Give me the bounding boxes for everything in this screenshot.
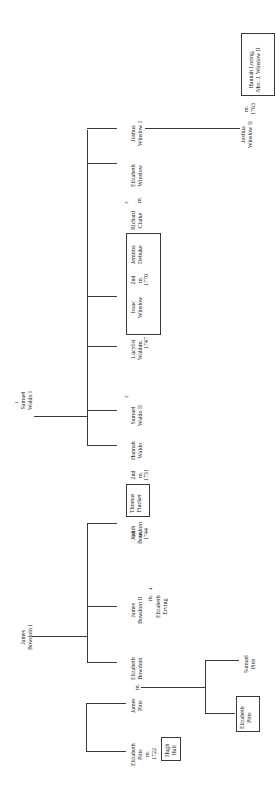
name-line: Elizabeth: [130, 743, 137, 766]
marriage-note: m. 1763: [243, 103, 256, 115]
name-line: Elizabeth: [130, 657, 137, 680]
person-elizabeth-pitts-sr: Elizabeth Pitts: [130, 743, 143, 766]
connector-line: [141, 687, 205, 688]
person-jemima-debuke: Jemima Debuke: [130, 245, 143, 264]
name-line: Hugh: [164, 744, 171, 757]
footnote-marker: 4: [148, 588, 153, 591]
name-line: Elizabeth: [130, 164, 137, 187]
connector-line: [86, 703, 87, 751]
marriage-note: 2nd m. 1770: [130, 274, 150, 286]
connector-line: [87, 410, 117, 411]
name-line: Winslow I: [137, 121, 144, 146]
person-samuel-waldo-i: Samuel Waldo I: [20, 391, 33, 410]
name-line: Bowdoin: [137, 657, 144, 680]
person-joshua-winslow-ii: Joshua Winslow II: [240, 121, 253, 148]
name-line: Hannah: [130, 441, 137, 460]
name-line: Bowdoin: [137, 522, 144, 544]
name-line: Winslow: [137, 164, 144, 187]
name-line: Pitts: [137, 698, 144, 713]
connector-line: [86, 751, 126, 752]
name-line: Clarke: [137, 211, 144, 230]
name-line: Joshua: [240, 121, 247, 148]
footnote-marker: 1: [14, 402, 19, 405]
name-line: Winslow: [137, 297, 144, 318]
person-elizabeth-erving: Elizabeth Erving: [155, 595, 168, 618]
marriage-year: 1744: [143, 528, 150, 540]
person-hugh-hall: Hugh Hall: [164, 744, 177, 757]
name-line: Waldo I: [27, 391, 34, 410]
name-line: Elizabeth: [239, 706, 246, 729]
marriage-year: 1751: [143, 469, 150, 481]
marriage-label: m.: [243, 103, 250, 115]
person-richard-clarke: Richard Clarke: [130, 211, 143, 230]
person-james-bowdoin-i: James Bowdoin I: [20, 625, 33, 651]
marriage-label: m.: [137, 274, 144, 286]
name-line: Jemima: [130, 245, 137, 264]
name-line: James: [130, 698, 137, 713]
person-samuel-pitts: Samuel Pitts: [243, 655, 256, 673]
connector-line: [87, 523, 88, 662]
connector-line: [87, 662, 117, 663]
person-elizabeth-bowdoin: Elizabeth Bowdoin: [130, 657, 143, 680]
connector-line: [34, 416, 87, 417]
person-james-pitts: James Pitts: [130, 698, 143, 713]
name-line: James: [130, 597, 137, 625]
name-line: Bowdoin II: [137, 597, 144, 625]
name-line: Samuel: [20, 391, 27, 410]
name-line: James: [20, 625, 27, 651]
person-samuel-waldo-ii: Samuel Waldo II: [130, 405, 143, 426]
name-line: Waldo: [137, 441, 144, 460]
connector-line: [205, 660, 239, 661]
name-line: Samuel: [243, 655, 250, 673]
marriage-label: m.: [144, 748, 151, 760]
person-james-bowdoin-ii: James Bowdoin II: [130, 597, 143, 625]
marriage-note: m. 1722: [144, 748, 157, 760]
marriage-order: 2nd: [130, 469, 137, 481]
name-line: Judith: [130, 522, 137, 544]
marriage-year: 1747: [143, 337, 150, 349]
name-line: Bowdoin I: [27, 625, 34, 651]
connector-line: [87, 296, 117, 297]
person-isaac-winslow: Isaac Winslow: [130, 297, 143, 318]
name-line: Pitts: [246, 706, 253, 729]
name-line: Hall: [171, 744, 178, 757]
name-line: Erving: [162, 595, 169, 618]
name-line: Pitts: [250, 655, 257, 673]
person-elizabeth-winslow: Elizabeth Winslow: [130, 164, 143, 187]
person-hannah-loring: Hannah Loring, Mrs. J. Winslow II: [248, 47, 261, 92]
person-judith-bowdoin: Judith Bowdoin: [130, 522, 143, 544]
connector-line: [87, 128, 117, 129]
footnote-marker: 3: [124, 202, 129, 205]
connector-line: [32, 636, 87, 637]
marriage-label: m.: [134, 684, 141, 690]
connector-line: [145, 128, 240, 129]
name-line: Lucy: [130, 344, 137, 360]
marriage-label: m.: [147, 595, 154, 601]
person-elizabeth-pitts-jr: Elizabeth Pitts: [239, 706, 252, 729]
footnote-marker: 2: [124, 396, 129, 399]
person-lucy-waldo: Lucy Waldo: [130, 344, 143, 360]
marriage-order: 2nd: [130, 274, 137, 286]
marriage-year: 1770: [143, 274, 150, 286]
connector-line: [87, 606, 117, 607]
connector-line: [87, 163, 117, 164]
connector-line: [86, 703, 126, 704]
name-line: Richard: [130, 211, 137, 230]
marriage-year: 1722: [151, 748, 158, 760]
person-thomas-flucker: Thomas Flucker: [129, 494, 142, 513]
name-line: Pitts: [137, 743, 144, 766]
connector-line: [87, 523, 117, 524]
marriage-note: 2nd m. 1751: [130, 469, 150, 481]
name-line: Isaac: [130, 297, 137, 318]
name-line: Debuke: [137, 245, 144, 264]
marriage-year: 1763: [250, 103, 257, 115]
name-line: Elizabeth: [155, 595, 162, 618]
name-line: Hannah Loring,: [248, 47, 255, 92]
connector-line: [87, 445, 117, 446]
name-line: Winslow II: [247, 121, 254, 148]
name-line: Mrs. J. Winslow II: [255, 47, 262, 92]
marriage-label: m.: [136, 197, 143, 203]
marriage-label: m.: [137, 469, 144, 481]
name-line: Joshua: [130, 121, 137, 146]
name-line: Waldo II: [137, 405, 144, 426]
